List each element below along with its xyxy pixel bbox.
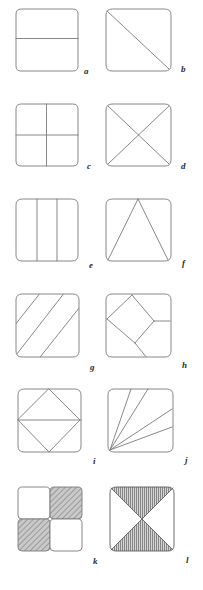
- figure-label-i: i: [93, 457, 96, 466]
- figure-e: [13, 196, 83, 266]
- figure-label-c: c: [87, 162, 91, 171]
- figure-label-e: e: [89, 261, 93, 270]
- figure-label-a: a: [84, 67, 89, 76]
- figure-b: [103, 6, 177, 76]
- figure-h: [103, 291, 177, 363]
- figure-h-drawing: [103, 291, 177, 363]
- figure-c: [13, 101, 83, 171]
- figure-l: [108, 485, 180, 557]
- figure-i-drawing: [15, 386, 87, 458]
- figure-f: [103, 196, 177, 266]
- figure-a-drawing: [13, 6, 83, 76]
- figure-k: [16, 485, 88, 557]
- figure-label-k: k: [93, 557, 98, 566]
- figure-b-drawing: [103, 6, 177, 76]
- figure-i: [15, 386, 87, 458]
- figure-d-drawing: [103, 101, 177, 171]
- figure-label-h: h: [182, 361, 187, 370]
- figure-k-drawing: [16, 485, 88, 557]
- figure-label-f: f: [182, 259, 185, 268]
- figure-g-drawing: [13, 291, 85, 363]
- figure-label-b: b: [181, 65, 186, 74]
- figure-l-drawing: [108, 485, 180, 557]
- figure-label-l: l: [186, 556, 189, 565]
- figure-g: [13, 291, 85, 363]
- figure-j: [105, 386, 179, 458]
- figure-c-drawing: [13, 101, 83, 171]
- figure-f-drawing: [103, 196, 177, 266]
- figure-e-drawing: [13, 196, 83, 266]
- figure-label-j: j: [185, 456, 188, 465]
- figure-j-drawing: [105, 386, 179, 458]
- figure-label-g: g: [90, 363, 95, 372]
- figure-d: [103, 101, 177, 171]
- figure-plate: a b c d: [0, 0, 203, 590]
- figure-label-d: d: [181, 162, 186, 171]
- figure-a: [13, 6, 83, 76]
